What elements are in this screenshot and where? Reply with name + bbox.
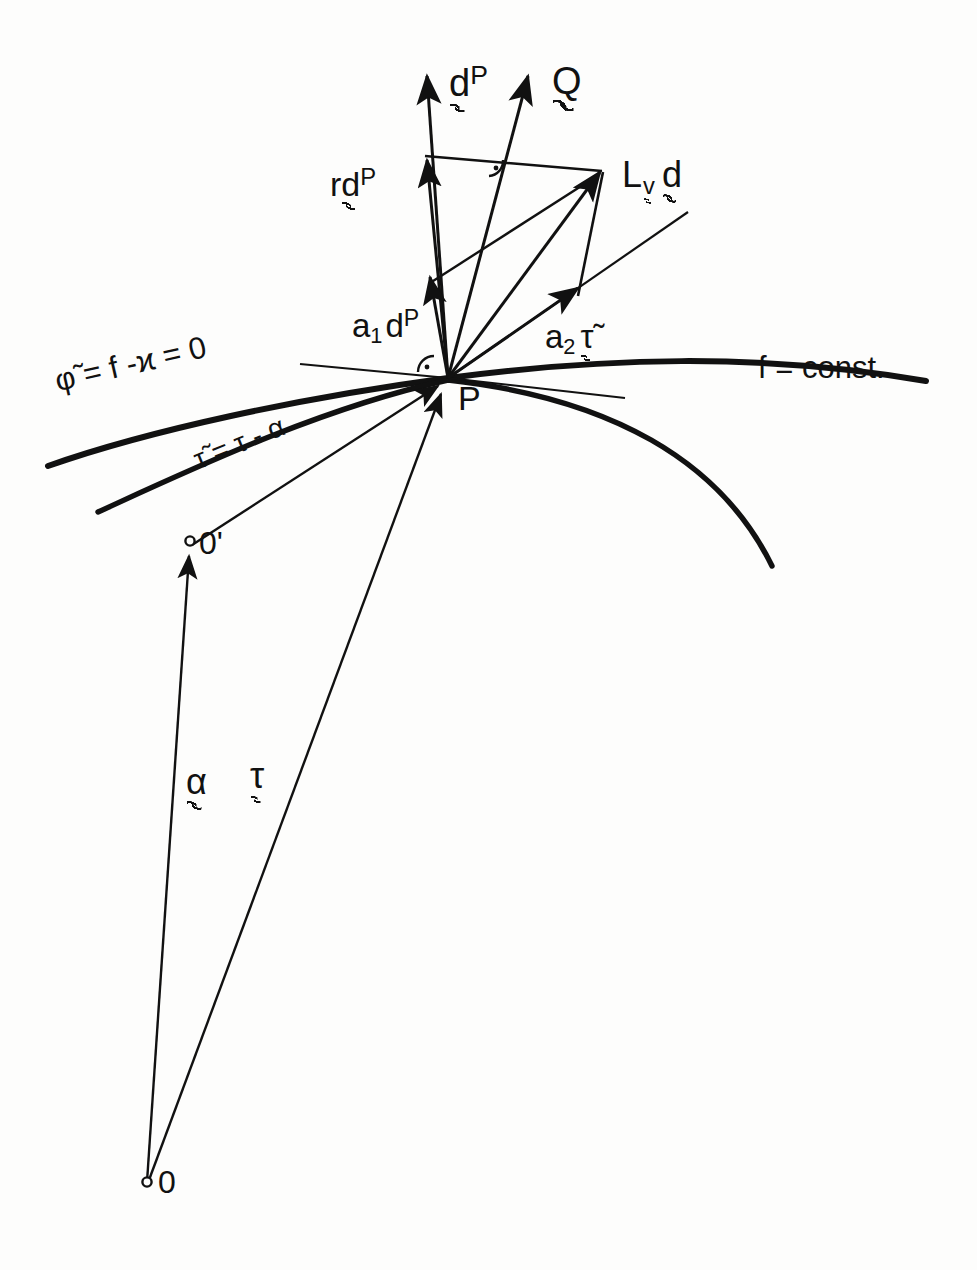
label-O-text: 0 (158, 1164, 176, 1200)
vector-tau-tilde (192, 386, 438, 545)
label-lie-d: d (662, 157, 682, 193)
right-angle-marker-at-P (418, 356, 434, 372)
label-O-prime-text: 0' (199, 525, 223, 561)
label-point-P: P (458, 381, 481, 415)
label-P-text: P (458, 379, 481, 417)
vector-r-d-P (427, 160, 448, 378)
label-Q-symbol: Q (552, 62, 582, 100)
label-vector-tau: τ (250, 758, 264, 794)
label-a2-tau-tilde: a2τ̃ (545, 320, 594, 358)
figure-canvas: dP Q rdP Lvd a1dP a2τ̃ φ̃ = f -ϰ = 0 τ̃ … (0, 0, 977, 1270)
label-vector-Q: Q (552, 62, 582, 100)
label-lie-derivative: Lvd (622, 157, 682, 197)
label-a1-d: d (385, 307, 403, 344)
diagram-svg (0, 0, 977, 1270)
parallelogram-diagonal (430, 174, 600, 283)
label-d-P-symbol: d (449, 64, 470, 102)
label-d-P-superscript: P (470, 60, 488, 90)
label-lie-L: L (622, 154, 642, 195)
label-a1-index: 1 (370, 323, 382, 348)
point-marker-O (142, 1177, 151, 1186)
label-r-prefix: r (330, 165, 341, 203)
label-a1-coefficient: a (352, 307, 370, 344)
label-point-O-prime: 0' (199, 527, 223, 559)
label-tau-symbol: τ (250, 758, 264, 794)
parallelogram-top-edge (425, 156, 602, 171)
label-vector-r-d-P: rdP (330, 165, 376, 201)
label-vector-alpha: α (186, 764, 207, 800)
label-r-d-P-superscript: P (360, 163, 376, 190)
label-r-d-P-symbol: d (341, 167, 360, 201)
label-a2-index: 2 (563, 334, 575, 359)
label-a1-superscript: P (404, 305, 419, 331)
label-f-const-text: f = const. (758, 350, 885, 385)
label-a2-tau-symbol: τ̃ (580, 320, 593, 353)
label-point-O: 0 (158, 1166, 176, 1198)
label-a2-coefficient: a (545, 318, 563, 355)
label-alpha-symbol: α (186, 764, 207, 800)
label-vector-d-P: dP (449, 62, 488, 102)
label-a1-d-P: a1dP (352, 307, 419, 347)
point-marker-O-prime (185, 536, 194, 545)
parallelogram-right-edge (578, 172, 603, 296)
label-lie-subscript-v: v (643, 174, 655, 198)
label-curve-f-const: f = const. (758, 352, 885, 383)
